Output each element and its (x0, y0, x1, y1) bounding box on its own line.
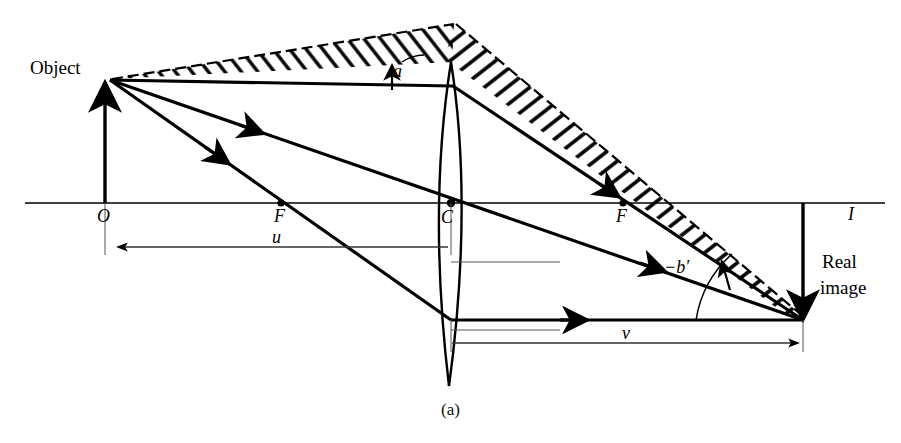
dimension-guides (105, 203, 803, 352)
label-focus-left-F: F (274, 207, 285, 225)
label-object: Object (30, 58, 81, 77)
label-angle-a: a (393, 62, 402, 80)
label-distance-u: u (272, 228, 281, 246)
figure-root: Object O F C F I Real image a −b′ u v (a… (0, 0, 901, 443)
hatched-wedge-right (430, 10, 830, 340)
label-distance-v: v (622, 324, 630, 342)
label-image-I: I (848, 205, 854, 223)
label-center-C: C (441, 208, 453, 226)
label-real-image-line2: image (820, 278, 866, 297)
label-real-image-line1: Real (822, 252, 857, 271)
label-focus-right-F: F (616, 207, 627, 225)
figure-caption: (a) (0, 400, 901, 420)
label-vertex-O: O (97, 207, 110, 225)
label-angle-b-prime: −b′ (664, 258, 689, 276)
